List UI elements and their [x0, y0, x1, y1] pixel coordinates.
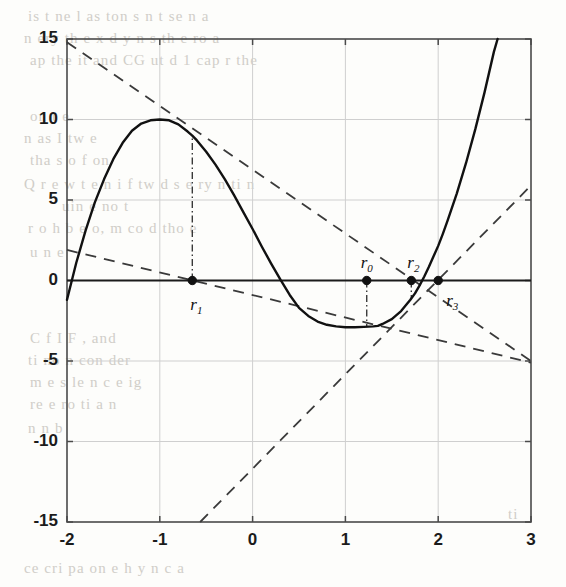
plot-figure: [0, 0, 566, 587]
x-tick-label--2: -2: [42, 530, 92, 550]
y-tick-label-10: 10: [8, 109, 58, 129]
marker-label-r3: r3: [446, 291, 458, 312]
tangent-at-r1: [67, 42, 531, 361]
marker-label-base: r: [446, 291, 453, 310]
marker-label-subscript: 1: [197, 304, 203, 316]
y-tick-label--15: -15: [8, 511, 58, 531]
y-tick-label--10: -10: [8, 431, 58, 451]
marker-r0: [363, 276, 371, 284]
y-tick-label--5: -5: [8, 350, 58, 370]
marker-r3: [434, 276, 442, 284]
tangent-at-r2: [200, 186, 531, 522]
marker-label-subscript: 0: [367, 262, 373, 274]
x-tick-label-2: 2: [413, 530, 463, 550]
marker-label-r2: r2: [407, 253, 419, 274]
y-tick-label-5: 5: [8, 189, 58, 209]
marker-r1: [188, 276, 196, 284]
x-tick-label-1: 1: [320, 530, 370, 550]
marker-r2: [407, 276, 415, 284]
marker-label-r1: r1: [190, 295, 202, 316]
x-tick-label-3: 3: [506, 530, 556, 550]
marker-label-base: r: [407, 253, 414, 272]
x-tick-label-0: 0: [228, 530, 278, 550]
y-tick-label-0: 0: [8, 270, 58, 290]
x-tick-label--1: -1: [135, 530, 185, 550]
dashed-lines: [67, 42, 531, 522]
y-tick-label-15: 15: [8, 28, 58, 48]
marker-label-base: r: [190, 295, 197, 314]
marker-label-subscript: 3: [453, 300, 459, 312]
marker-label-subscript: 2: [414, 262, 420, 274]
dashdot-drop-lines: [192, 136, 411, 327]
marker-label-r0: r0: [361, 253, 373, 274]
